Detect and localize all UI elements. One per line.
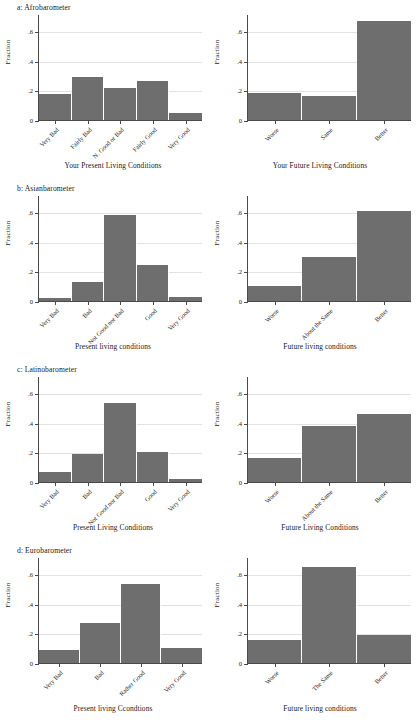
x-axis-title: Future Living Conditions	[209, 523, 417, 532]
x-tick-mark	[153, 302, 154, 305]
x-tick-label: Bad	[81, 488, 93, 500]
y-tick-label: .4	[28, 59, 33, 66]
bar	[104, 88, 137, 120]
bar-group	[39, 379, 202, 482]
plot-area: 0.2.4.6	[38, 17, 202, 121]
x-tick-slot: Fairly Bad	[72, 121, 105, 165]
bar	[169, 297, 202, 301]
y-tick-label: .6	[237, 29, 242, 36]
x-tick-slot: Bad	[80, 664, 121, 708]
x-tick-mark	[182, 664, 183, 667]
plot-inner: 0.2.4.6	[38, 198, 202, 302]
x-tick-label: Good	[143, 488, 158, 503]
y-tick-label: .6	[237, 572, 242, 579]
panel-row: a: AfrobarometerFraction0.2.4.6Very BadF…	[0, 0, 417, 181]
x-tick-slot: Better	[357, 302, 411, 346]
x-tick-group: WorseSameBetter	[248, 121, 411, 165]
x-tick-slot: Very Good	[169, 302, 202, 346]
y-tick-label: 0	[239, 118, 242, 125]
x-axis-title: Future living conditions	[209, 704, 417, 713]
x-tick-mark	[384, 302, 385, 305]
plot-area: 0.2.4.6	[247, 560, 411, 664]
y-tick-label: .6	[28, 572, 33, 579]
x-tick-slot: Very Good	[161, 664, 202, 708]
x-tick-mark	[384, 483, 385, 486]
x-tick-mark	[55, 121, 56, 124]
bar-slot	[39, 560, 80, 663]
plot-inner: 0.2.4.6	[38, 17, 202, 121]
x-tick-label: Bad	[93, 669, 105, 681]
y-tick-label: .4	[237, 240, 242, 247]
chart-panel-afrobarometer-future: Fraction0.2.4.6WorseSameBetterYour Futur…	[209, 0, 417, 181]
x-tick-slot: Not Good nor Bad	[104, 483, 137, 527]
x-tick-group: WorseAbout the SameBetter	[248, 302, 411, 346]
x-tick-group: WorseThe SameBetter	[248, 664, 411, 708]
x-tick-slot: Same	[302, 121, 356, 165]
bar-group	[248, 560, 411, 663]
plot-inner: 0.2.4.6	[247, 379, 411, 483]
bar-slot	[72, 198, 105, 301]
y-tick-label: .2	[28, 269, 33, 276]
y-tick-label: .6	[237, 391, 242, 398]
panel-row: b: AsianbarometerFraction0.2.4.6Very Bad…	[0, 181, 417, 362]
bar	[302, 567, 356, 663]
bar	[357, 414, 411, 482]
bar	[302, 426, 356, 482]
y-tick-label: .4	[237, 59, 242, 66]
bar	[302, 96, 356, 121]
bar	[169, 113, 202, 120]
plot-area: 0.2.4.6	[247, 198, 411, 302]
panel-row: c: LatinobarometerFraction0.2.4.6Very Ba…	[0, 362, 417, 543]
x-tick-slot: Worse	[248, 664, 302, 708]
x-tick-mark	[275, 483, 276, 486]
bar-slot	[248, 560, 302, 663]
bar	[357, 211, 411, 301]
y-tick-label: .2	[28, 631, 33, 638]
plot-area: 0.2.4.6	[38, 560, 202, 664]
bar-slot	[169, 379, 202, 482]
y-axis-title: Fraction	[4, 402, 12, 427]
bar-slot	[302, 560, 356, 663]
x-tick-slot: About the Same	[302, 483, 356, 527]
x-tick-mark	[186, 121, 187, 124]
bar-slot	[248, 379, 302, 482]
x-tick-mark	[153, 121, 154, 124]
bar-slot	[137, 17, 170, 120]
x-tick-mark	[275, 302, 276, 305]
bar-slot	[169, 17, 202, 120]
bar	[357, 21, 411, 120]
x-tick-slot: Very Good	[169, 483, 202, 527]
x-tick-group: WorseAbout the SameBetter	[248, 483, 411, 527]
x-tick-label: Bad	[81, 307, 93, 319]
x-tick-slot: Worse	[248, 302, 302, 346]
bar-slot	[137, 198, 170, 301]
x-tick-mark	[329, 302, 330, 305]
x-tick-mark	[88, 483, 89, 486]
y-axis-title: Fraction	[213, 40, 221, 65]
x-tick-label: Very Bad	[42, 669, 64, 691]
panel-title: a: Afrobarometer	[17, 3, 71, 12]
x-tick-label: Good	[143, 307, 158, 322]
plot-area: 0.2.4.6	[247, 379, 411, 483]
bar-slot	[357, 198, 411, 301]
bar-slot	[248, 17, 302, 120]
x-tick-slot: Worse	[248, 483, 302, 527]
x-tick-slot: Rather Good	[121, 664, 162, 708]
bar-group	[248, 379, 411, 482]
x-tick-slot: N. Good or Bad	[104, 121, 137, 165]
x-tick-slot: The Same	[302, 664, 356, 708]
chart-panel-asianbarometer-present: b: AsianbarometerFraction0.2.4.6Very Bad…	[0, 181, 208, 362]
x-tick-mark	[384, 121, 385, 124]
bar-group	[39, 198, 202, 301]
x-axis-title: Present Living Conditions	[0, 523, 208, 532]
bar-slot	[137, 379, 170, 482]
x-tick-slot: Very Bad	[39, 483, 72, 527]
bar-group	[248, 17, 411, 120]
x-tick-mark	[88, 302, 89, 305]
bar-slot	[357, 379, 411, 482]
x-tick-slot: Very Bad	[39, 302, 72, 346]
barometer-figure: a: AfrobarometerFraction0.2.4.6Very BadF…	[0, 0, 417, 724]
y-tick-label: .2	[28, 88, 33, 95]
x-axis-title: Present living conditions	[0, 342, 208, 351]
y-tick-label: .4	[28, 240, 33, 247]
